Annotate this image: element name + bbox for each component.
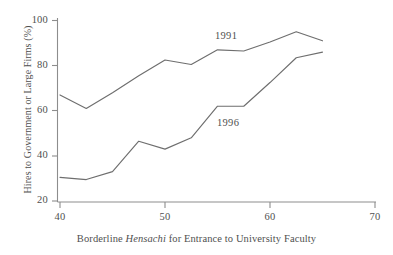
x-tick-label-50: 50 [151,211,179,222]
y-tick-marks [52,21,58,202]
y-axis-title: Hires to Government or Large Firms (%) [22,15,33,205]
x-axis-title-prefix: Borderline [77,233,126,244]
chart-figure: 100 80 60 40 20 40 50 60 70 Hires to Gov… [0,0,393,255]
x-tick-marks [60,202,375,208]
series-annotation-1996: 1996 [217,117,239,128]
x-axis-title-suffix: for Entrance to University Faculty [166,233,316,244]
series-line-1996 [60,52,323,179]
x-axis-title: Borderline Hensachi for Entrance to Univ… [0,233,393,244]
series-annotation-1991: 1991 [215,30,237,41]
x-axis-title-italic-term: Hensachi [126,233,166,244]
x-tick-label-70: 70 [361,211,389,222]
x-tick-label-60: 60 [256,211,284,222]
x-tick-label-40: 40 [46,211,74,222]
